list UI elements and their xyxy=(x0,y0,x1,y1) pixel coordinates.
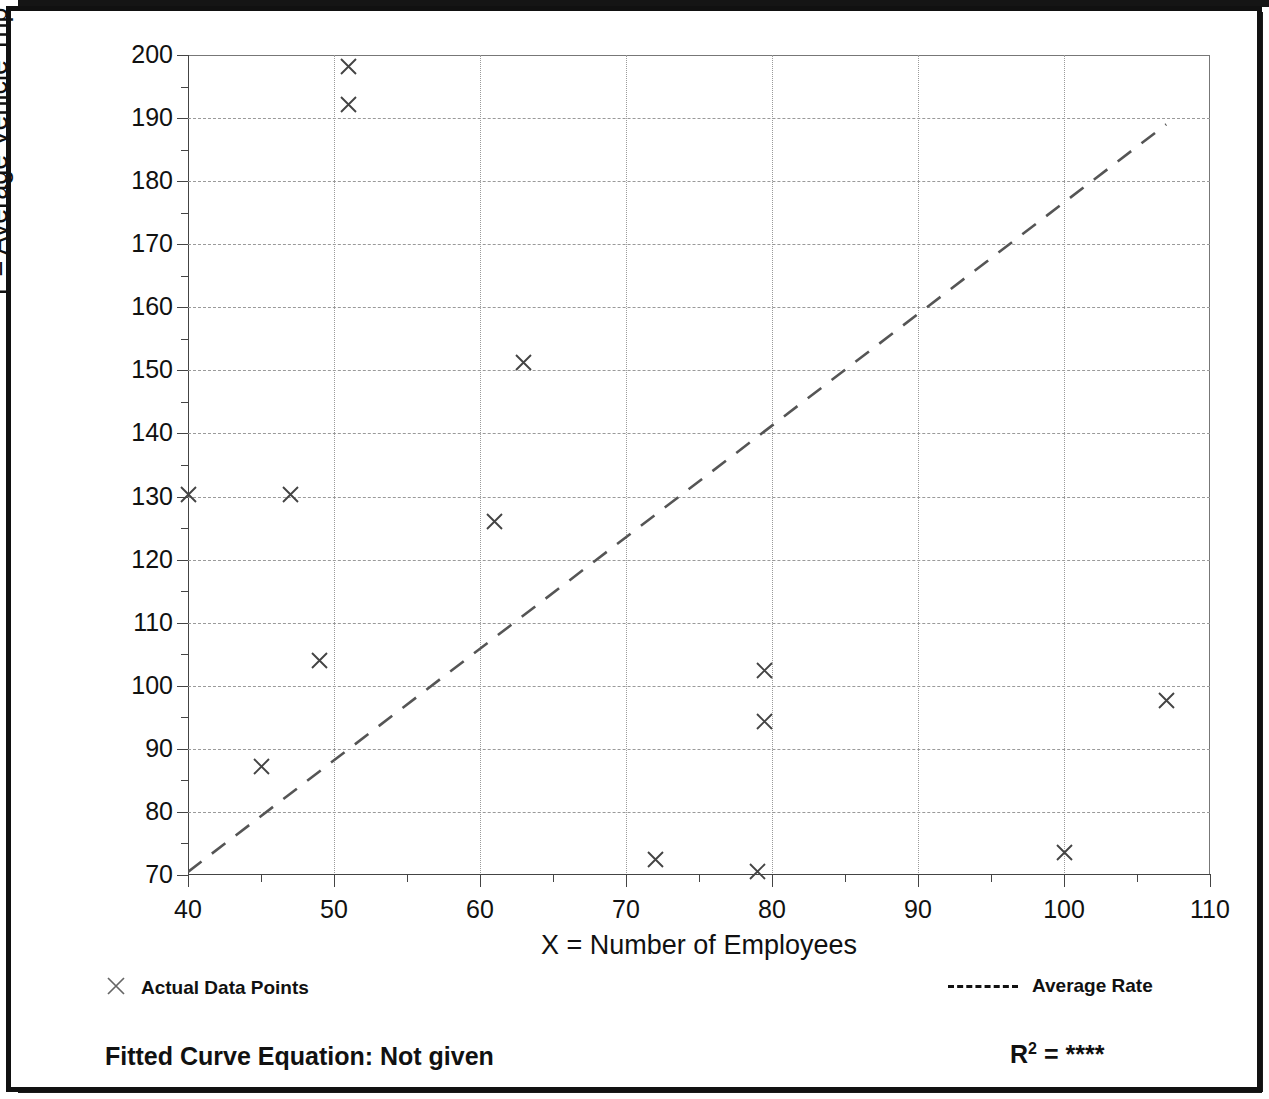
data-point-marker xyxy=(339,95,358,114)
y-tick-major xyxy=(177,433,188,434)
figure-page: T = Average Vehicle Trip Ends X = Number… xyxy=(0,0,1269,1099)
data-point-marker xyxy=(252,757,271,776)
data-point-marker xyxy=(310,651,329,670)
data-point-marker xyxy=(1157,691,1176,710)
y-tick-minor xyxy=(181,717,188,718)
x-tick-major xyxy=(772,874,773,887)
y-tick-major xyxy=(177,307,188,308)
x-tick-major xyxy=(188,874,189,887)
x-tick-minor xyxy=(407,874,408,882)
y-tick-minor xyxy=(181,339,188,340)
y-tick-label: 150 xyxy=(103,357,173,382)
x-tick-label: 110 xyxy=(1170,897,1250,922)
y-tick-major xyxy=(177,560,188,561)
r2-prefix: R xyxy=(1010,1040,1028,1068)
data-point-marker xyxy=(485,512,504,531)
y-tick-minor xyxy=(181,276,188,277)
y-tick-label: 90 xyxy=(103,736,173,761)
y-tick-minor xyxy=(181,654,188,655)
x-tick-minor xyxy=(553,874,554,882)
data-point-marker xyxy=(1055,843,1074,862)
y-tick-major xyxy=(177,244,188,245)
y-tick-label: 140 xyxy=(103,420,173,445)
x-tick-label: 50 xyxy=(294,897,374,922)
y-tick-minor xyxy=(181,213,188,214)
x-tick-minor xyxy=(699,874,700,882)
y-tick-label: 170 xyxy=(103,231,173,256)
y-tick-label: 120 xyxy=(103,547,173,572)
y-tick-label: 80 xyxy=(103,799,173,824)
x-axis-title: X = Number of Employees xyxy=(188,930,1210,961)
y-tick-label: 130 xyxy=(103,484,173,509)
x-tick-label: 100 xyxy=(1024,897,1104,922)
r2-exponent: 2 xyxy=(1028,1040,1037,1057)
x-tick-major xyxy=(918,874,919,887)
y-tick-major xyxy=(177,749,188,750)
r2-value: **** xyxy=(1065,1040,1104,1068)
r2-equals: = xyxy=(1037,1040,1066,1068)
x-tick-minor xyxy=(991,874,992,882)
r-squared-annotation: R2 = **** xyxy=(1010,1040,1104,1069)
average-rate-trendline xyxy=(188,55,1210,875)
x-tick-major xyxy=(480,874,481,887)
data-point-marker xyxy=(339,57,358,76)
y-tick-label: 200 xyxy=(103,42,173,67)
y-tick-major xyxy=(177,623,188,624)
y-tick-minor xyxy=(181,150,188,151)
x-tick-major xyxy=(1210,874,1211,887)
x-tick-label: 40 xyxy=(148,897,228,922)
y-tick-major xyxy=(177,812,188,813)
x-tick-major xyxy=(334,874,335,887)
legend-label-average-rate: Average Rate xyxy=(1032,975,1153,997)
chart-legend: Actual Data Points Average Rate xyxy=(0,975,1269,1030)
y-tick-label: 100 xyxy=(103,673,173,698)
y-tick-minor xyxy=(181,843,188,844)
y-tick-minor xyxy=(181,465,188,466)
data-point-marker xyxy=(755,661,774,680)
x-tick-minor xyxy=(845,874,846,882)
y-tick-minor xyxy=(181,591,188,592)
x-tick-major xyxy=(626,874,627,887)
x-marker-icon xyxy=(105,975,127,1001)
x-tick-label: 60 xyxy=(440,897,520,922)
y-tick-major xyxy=(177,118,188,119)
y-tick-label: 110 xyxy=(103,610,173,635)
x-tick-minor xyxy=(1137,874,1138,882)
legend-label-actual-data-points: Actual Data Points xyxy=(141,977,309,999)
data-point-marker xyxy=(646,850,665,869)
data-point-marker xyxy=(281,485,300,504)
x-tick-major xyxy=(1064,874,1065,887)
y-tick-major xyxy=(177,370,188,371)
trendline-path xyxy=(188,124,1166,871)
data-point-marker xyxy=(748,862,767,881)
y-tick-major xyxy=(177,875,188,876)
dashed-line-icon xyxy=(948,985,1018,988)
fitted-curve-equation: Fitted Curve Equation: Not given xyxy=(105,1042,494,1071)
y-tick-major xyxy=(177,181,188,182)
y-axis-title: T = Average Vehicle Trip Ends xyxy=(0,0,14,300)
y-tick-minor xyxy=(181,780,188,781)
scatter-chart-figure: T = Average Vehicle Trip Ends X = Number… xyxy=(0,0,1269,1099)
y-tick-minor xyxy=(181,402,188,403)
data-point-marker xyxy=(514,353,533,372)
data-point-marker xyxy=(179,485,198,504)
plot-area: 7080901001101201301401501601701801902004… xyxy=(188,55,1210,875)
y-tick-minor xyxy=(181,528,188,529)
x-tick-minor xyxy=(261,874,262,882)
data-point-marker xyxy=(755,712,774,731)
y-tick-major xyxy=(177,55,188,56)
x-tick-label: 70 xyxy=(586,897,666,922)
y-tick-label: 160 xyxy=(103,294,173,319)
y-tick-label: 190 xyxy=(103,105,173,130)
x-tick-label: 90 xyxy=(878,897,958,922)
legend-item-average-rate[interactable]: Average Rate xyxy=(948,975,1153,997)
y-tick-label: 70 xyxy=(103,862,173,887)
y-tick-minor xyxy=(181,87,188,88)
y-tick-major xyxy=(177,686,188,687)
x-tick-label: 80 xyxy=(732,897,812,922)
y-tick-label: 180 xyxy=(103,168,173,193)
legend-item-actual-data-points[interactable]: Actual Data Points xyxy=(105,975,309,1001)
